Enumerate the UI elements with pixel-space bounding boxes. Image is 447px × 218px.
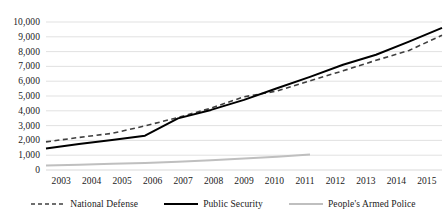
y-axis-tick-label: 10,000 [0,17,40,27]
legend-swatch-icon [31,200,65,208]
series-lines [46,22,442,170]
legend-swatch-icon [289,200,323,208]
y-axis-tick-label: 9,000 [0,32,40,42]
x-axis-tick-label: 2010 [259,173,289,189]
y-axis: 10,0009,0008,0007,0006,0005,0004,0003,00… [0,22,40,170]
chart-legend: National DefensePublic SecurityPeople's … [0,194,447,214]
y-axis-tick-label: 4,000 [0,106,40,116]
plot-area [46,22,442,170]
x-axis-tick-label: 2007 [168,173,198,189]
y-axis-tick-label: 0 [0,165,40,175]
series-line [46,154,310,165]
x-axis-tick-label: 2011 [290,173,320,189]
legend-item[interactable]: National Defense [31,198,138,210]
x-axis-tick-label: 2003 [46,173,76,189]
x-axis-tick-label: 2009 [229,173,259,189]
legend-item[interactable]: Public Security [164,198,263,210]
y-axis-tick-label: 2,000 [0,135,40,145]
x-axis-tick-label: 2015 [412,173,442,189]
x-axis-tick-label: 2013 [351,173,381,189]
x-axis-tick-label: 2006 [137,173,167,189]
y-axis-tick-label: 1,000 [0,150,40,160]
y-axis-tick-label: 7,000 [0,61,40,71]
x-axis-tick-label: 2012 [320,173,350,189]
legend-item-label: Public Security [203,198,263,210]
y-axis-tick-label: 6,000 [0,76,40,86]
legend-item-label: People's Armed Police [328,198,416,210]
legend-item[interactable]: People's Armed Police [289,198,416,210]
series-line [46,28,442,149]
x-axis-tick-label: 2005 [107,173,137,189]
x-axis: 2003200420052006200720082009201020112012… [46,173,442,189]
legend-swatch-icon [164,200,198,208]
y-axis-tick-label: 5,000 [0,91,40,101]
x-axis-tick-label: 2014 [381,173,411,189]
legend-item-label: National Defense [70,198,138,210]
line-chart: 10,0009,0008,0007,0006,0005,0004,0003,00… [0,0,447,218]
x-axis-tick-label: 2008 [198,173,228,189]
y-axis-tick-label: 8,000 [0,47,40,57]
x-axis-tick-label: 2004 [76,173,106,189]
y-axis-tick-label: 3,000 [0,121,40,131]
